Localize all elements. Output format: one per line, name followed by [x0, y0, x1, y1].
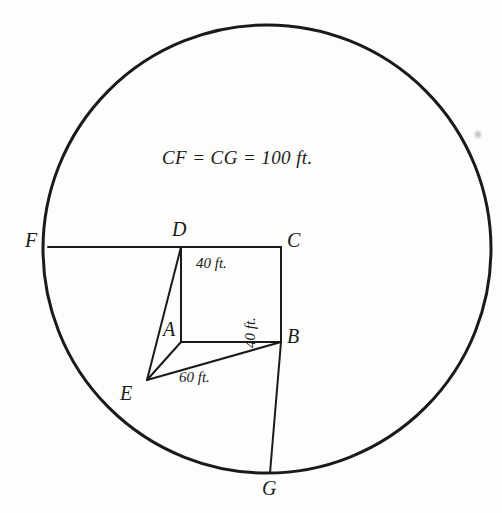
vertex-label-B: B — [287, 326, 299, 346]
vertex-label-G: G — [262, 478, 276, 498]
segment-EB — [147, 342, 281, 380]
geometry-figure: CF = CG = 100 ft. A B C D E F G 40 ft. 4… — [0, 0, 502, 513]
vertex-label-D: D — [172, 219, 186, 239]
vertex-label-A: A — [163, 319, 175, 339]
dimension-label-dc: 40 ft. — [196, 256, 227, 271]
dimension-label-cb: 40 ft. — [243, 317, 258, 348]
caption-cf-cg: CF = CG = 100 ft. — [162, 148, 313, 167]
scan-artifact-speck — [475, 131, 481, 138]
vertex-label-E: E — [120, 383, 132, 403]
figure-canvas — [0, 0, 502, 513]
dimension-label-eb: 60 ft. — [179, 370, 210, 385]
main-circle — [43, 25, 491, 473]
segment-BG — [270, 342, 281, 473]
vertex-label-C: C — [287, 230, 300, 250]
vertex-label-F: F — [25, 230, 37, 250]
segments-group — [48, 247, 281, 473]
